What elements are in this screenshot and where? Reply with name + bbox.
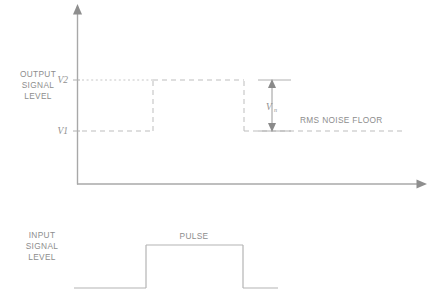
input-group-label-line2: SIGNAL [26, 241, 59, 251]
output-plot-ticks [73, 80, 80, 131]
noise-amplitude-subscript: n [274, 106, 277, 113]
diagram-canvas: OUTPUT SIGNAL LEVEL V2 V1 V n RMS NOISE … [0, 0, 433, 304]
waveform-diagram: OUTPUT SIGNAL LEVEL V2 V1 V n RMS NOISE … [0, 0, 433, 304]
output-group-label-line2: SIGNAL [22, 80, 55, 90]
y-axis-arrowhead-icon [73, 4, 82, 15]
rms-noise-floor-label: RMS NOISE FLOOR [300, 115, 383, 125]
pulse-label: PULSE [180, 231, 209, 241]
output-plot-axes [73, 4, 427, 189]
output-group-label-line1: OUTPUT [20, 69, 56, 79]
y-axis-label-v1: V1 [57, 126, 68, 136]
input-group-label-line3: LEVEL [28, 252, 56, 262]
output-group-label-line3: LEVEL [24, 91, 52, 101]
input-waveform [74, 245, 278, 288]
x-axis-arrowhead-icon [417, 180, 428, 189]
input-group-label-line1: INPUT [29, 230, 56, 240]
y-axis-label-v2: V2 [57, 75, 68, 85]
